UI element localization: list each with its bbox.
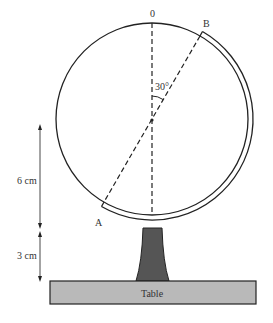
globe-stand bbox=[136, 228, 169, 281]
center-point bbox=[150, 118, 153, 121]
label-point-b: B bbox=[203, 18, 210, 29]
globe-diagram: 0 B A 30° 6 cm 3 cm Table bbox=[0, 0, 273, 323]
rail-end-b bbox=[200, 32, 203, 37]
label-zero: 0 bbox=[150, 8, 155, 19]
arrowhead-up-6cm bbox=[38, 124, 42, 130]
label-angle: 30° bbox=[155, 81, 169, 92]
arrowhead-down-6cm bbox=[38, 223, 42, 229]
rail-end-a bbox=[102, 202, 105, 207]
label-point-a: A bbox=[95, 217, 103, 228]
rail-outer-arc bbox=[102, 32, 254, 221]
label-3cm: 3 cm bbox=[17, 250, 37, 261]
arrowhead-down-3cm bbox=[38, 276, 42, 282]
arrowhead-up-3cm bbox=[38, 231, 42, 237]
label-table: Table bbox=[141, 288, 164, 299]
label-6cm: 6 cm bbox=[17, 175, 37, 186]
angle-arc bbox=[152, 96, 163, 100]
